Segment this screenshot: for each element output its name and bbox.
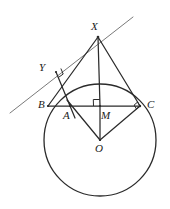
point-label-c: C <box>147 99 154 110</box>
point-label-m: M <box>101 110 110 121</box>
segment-XM <box>98 37 100 106</box>
segment-XC <box>98 37 140 106</box>
vertex-dot-C <box>139 105 141 107</box>
right-angle-at-M <box>93 100 100 106</box>
vertex-dot-Y <box>55 71 57 73</box>
geometry-figure: X Y B A M C O <box>0 0 170 209</box>
vertex-dot-O <box>99 139 101 141</box>
geometry-canvas <box>0 0 170 209</box>
point-label-x: X <box>91 21 98 32</box>
vertex-dot-A <box>69 105 71 107</box>
vertex-dot-M <box>99 105 101 107</box>
point-label-o: O <box>95 143 103 154</box>
point-label-b: B <box>38 99 45 110</box>
vertex-dot-B <box>47 105 49 107</box>
point-label-a: A <box>63 110 70 121</box>
vertex-dot-X <box>97 36 100 39</box>
point-label-y: Y <box>39 62 45 73</box>
